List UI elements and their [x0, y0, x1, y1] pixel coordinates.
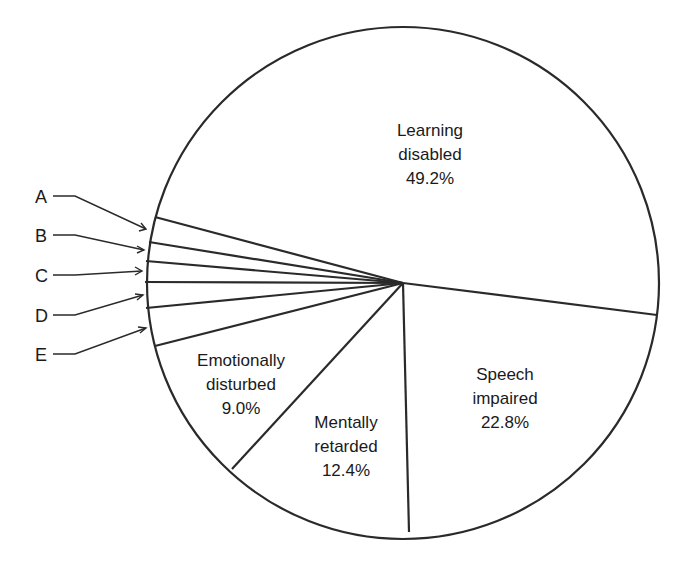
callout-label-e: E: [35, 345, 47, 365]
callout-label-d: D: [35, 306, 48, 326]
callout-arrow-c: [53, 271, 142, 275]
label-speech-2: impaired: [472, 389, 537, 408]
pie-chart: A B C D E Learning disabled 49.2% Speech…: [0, 0, 681, 569]
label-mental-pct: 12.4%: [322, 461, 370, 480]
label-speech-1: Speech: [476, 365, 534, 384]
callout-arrow-a: [53, 196, 146, 229]
divider-d-e: [146, 283, 403, 308]
label-speech-pct: 22.8%: [481, 413, 529, 432]
callout-arrow-b: [53, 235, 144, 250]
label-emotional-2: disturbed: [206, 375, 276, 394]
divider-learning-speech: [403, 283, 657, 315]
callout-arrow-e: [53, 328, 146, 354]
divider-speech-mental: [403, 283, 409, 532]
divider-emotional-e: [155, 283, 403, 346]
label-learning-pct: 49.2%: [406, 169, 454, 188]
callout-label-b: B: [35, 226, 47, 246]
callout-arrow-d: [53, 295, 143, 315]
divider-c-d: [145, 282, 403, 283]
callout-label-c: C: [35, 266, 48, 286]
label-mental-2: retarded: [314, 437, 377, 456]
label-emotional-1: Emotionally: [197, 351, 285, 370]
label-learning-2: disabled: [398, 145, 461, 164]
label-learning-1: Learning: [397, 121, 463, 140]
label-emotional-pct: 9.0%: [222, 399, 261, 418]
callout-label-a: A: [35, 187, 47, 207]
label-mental-1: Mentally: [314, 413, 378, 432]
